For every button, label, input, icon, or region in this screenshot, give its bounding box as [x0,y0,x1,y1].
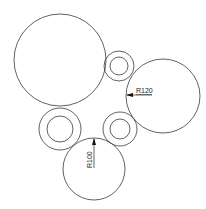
dim-r120: R120 [126,87,153,97]
arrow-up-icon [92,138,96,145]
dim-r120-label: R120 [136,87,153,94]
cad-drawing: R120 R100 [0,0,206,209]
middle-ring [103,112,137,146]
left-ring [39,108,81,150]
top-small-ring [104,51,134,81]
large-circle [14,14,106,106]
right-circle [126,59,200,133]
arrow-left-icon [126,93,133,97]
dim-r100-label: R100 [86,151,93,168]
dim-r100: R100 [86,138,96,168]
